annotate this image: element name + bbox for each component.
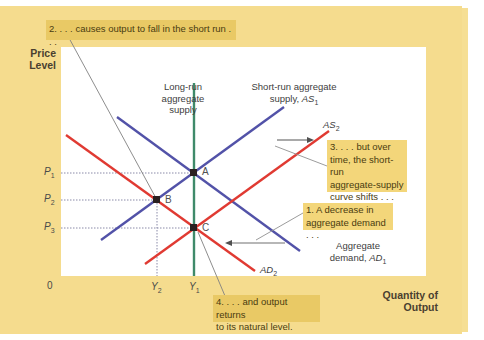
ad1-label: Aggregate demand, AD1 bbox=[318, 240, 398, 267]
leader-line-4 bbox=[198, 232, 225, 296]
as-shift-arrow bbox=[277, 137, 314, 143]
leader-line-2 bbox=[69, 38, 157, 200]
point-c-label: C bbox=[202, 222, 209, 233]
point-a-label: A bbox=[202, 166, 209, 177]
y-tick-p3: P3 bbox=[44, 221, 55, 234]
origin-label: 0 bbox=[47, 280, 53, 291]
ad2-curve bbox=[66, 135, 255, 271]
x-tick-y1: Y1 bbox=[189, 281, 200, 294]
ad-shift-arrow bbox=[225, 240, 285, 246]
y-tick-p2: P2 bbox=[44, 193, 55, 206]
y-axis-title: Price Level bbox=[20, 47, 56, 71]
note-1: 1. A decrease in aggregate demand . . . bbox=[303, 203, 393, 230]
note-2: 2. . . . causes output to fall in the sh… bbox=[46, 20, 236, 40]
x-tick-y2: Y2 bbox=[151, 281, 162, 294]
point-a-marker bbox=[190, 169, 197, 176]
x-axis-title: Quantity of Output bbox=[370, 289, 438, 313]
point-b-marker bbox=[153, 196, 160, 203]
guide-lines bbox=[61, 173, 194, 276]
note-3: 3. . . . but over time, the short-run ag… bbox=[327, 140, 407, 192]
as2-curve bbox=[145, 131, 329, 264]
note-4: 4. . . . and output returns to its natur… bbox=[213, 295, 320, 322]
point-c-marker bbox=[190, 224, 197, 231]
as2-label: AS2 bbox=[323, 119, 340, 134]
y-tick-p1: P1 bbox=[44, 166, 55, 179]
as1-label: Short-run aggregate supply, AS1 bbox=[244, 81, 344, 108]
ad2-label: AD2 bbox=[260, 264, 277, 279]
lras-label: Long-run aggregate supply bbox=[148, 81, 218, 116]
point-b-label: B bbox=[165, 194, 172, 205]
